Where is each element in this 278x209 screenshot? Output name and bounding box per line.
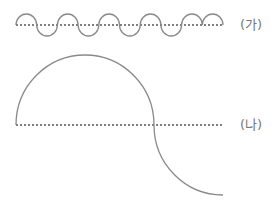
label-na: (나) bbox=[240, 118, 262, 131]
wave-na bbox=[16, 55, 223, 195]
wave-ga bbox=[16, 14, 223, 36]
wave-diagram bbox=[0, 0, 278, 209]
label-ga: (가) bbox=[240, 18, 262, 31]
